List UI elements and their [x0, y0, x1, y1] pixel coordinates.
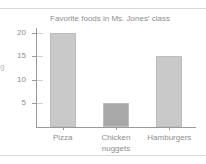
- y-gridline: [37, 103, 43, 104]
- y-axis-tick-label: 15: [17, 52, 26, 60]
- y-gridline: [37, 33, 43, 34]
- x-axis-label: Hamburgers: [138, 132, 200, 143]
- chart-title: Favorite foods in Ms. Jones' class: [30, 14, 190, 24]
- bar-chart: Favorite foods in Ms. Jones' class 51015…: [0, 0, 206, 164]
- x-axis-tick: [116, 127, 117, 130]
- plot-area: 5101520 PizzaChickennuggetsHamburgers: [36, 28, 196, 127]
- y-axis-tick: 5: [32, 103, 37, 104]
- y-gridline: [37, 80, 43, 81]
- y-gridline: [37, 56, 43, 57]
- y-axis-tick-label: 10: [17, 76, 26, 84]
- y-axis-tick-label: 20: [17, 29, 26, 37]
- y-axis-tick: 10: [32, 80, 37, 81]
- x-axis-tick: [169, 127, 170, 130]
- y-axis-tick: 15: [32, 56, 37, 57]
- x-axis-tick: [63, 127, 64, 130]
- bar: [50, 33, 76, 127]
- y-axis-tick: 20: [32, 33, 37, 34]
- y-axis-line: [36, 28, 37, 127]
- bar: [156, 56, 182, 127]
- scanned-page: g Favorite foods in Ms. Jones' class 510…: [0, 0, 206, 164]
- y-axis-tick-label: 5: [22, 99, 26, 107]
- bar: [103, 103, 129, 127]
